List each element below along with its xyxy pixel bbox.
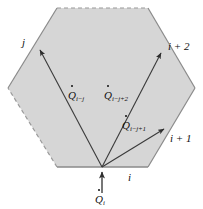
overdot-icon (107, 85, 109, 87)
diagram-canvas (0, 0, 203, 209)
q-symbol-i-minus-j: Q (68, 90, 76, 101)
label-flux-i: Qi (95, 194, 105, 205)
overdot-icon (98, 189, 100, 191)
label-i-plus-1: i + 1 (170, 133, 191, 144)
label-i: i (128, 172, 131, 183)
hexagonal-enclosure-radiation-diagram: j i + 2 i + 1 i Qi−j Qi−j+2 Qi−j+1 Qi (0, 0, 203, 209)
q-symbol-i-minus-j-plus-2: Q (104, 90, 112, 101)
label-flux-i-minus-j-plus-1: Qi−j+1 (122, 120, 146, 131)
q-base: Q (104, 89, 112, 101)
q-subscript: i−j+2 (112, 95, 128, 103)
q-subscript: i−j (76, 95, 84, 103)
label-i-plus-2: i + 2 (168, 41, 189, 52)
q-base: Q (95, 193, 103, 205)
hexagon-shape (8, 8, 195, 167)
q-base: Q (68, 89, 76, 101)
q-symbol-i-minus-j-plus-1: Q (122, 120, 130, 131)
q-subscript: i−j+1 (130, 125, 146, 133)
label-flux-i-minus-j-plus-2: Qi−j+2 (104, 90, 128, 101)
q-subscript: i (103, 199, 105, 207)
overdot-icon (71, 85, 73, 87)
q-symbol-i: Q (95, 194, 103, 205)
label-flux-i-minus-j: Qi−j (68, 90, 84, 101)
label-j: j (22, 37, 25, 48)
overdot-icon (125, 115, 127, 117)
q-base: Q (122, 119, 130, 131)
